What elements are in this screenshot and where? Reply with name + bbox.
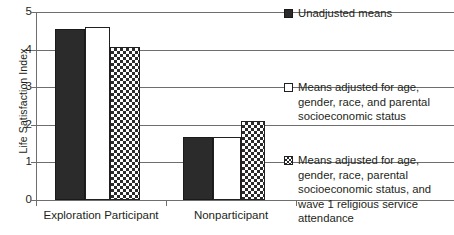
x-tick-separator-mid <box>166 200 167 206</box>
legend-swatch-checkered-square-icon <box>284 156 293 165</box>
x-category-exploration-participant: Exploration Participant <box>36 209 166 221</box>
bar-unadjusted-nonparticipant <box>183 137 213 200</box>
y-tickmark-5 <box>31 12 37 13</box>
y-tickmark-1 <box>31 162 37 163</box>
y-tick-5: 5 <box>10 6 32 17</box>
x-tick-separator-left <box>36 200 37 206</box>
bar-adjusted-full-nonparticipant <box>241 121 265 200</box>
y-tick-4: 4 <box>10 44 32 55</box>
y-axis-line <box>36 12 37 200</box>
y-tick-3: 3 <box>10 81 32 92</box>
legend-swatch-solid-square-icon <box>284 9 293 18</box>
legend-label-unadjusted: Unadjusted means <box>298 6 392 21</box>
bar-adjusted-basic-nonparticipant <box>213 137 241 200</box>
legend-label-adjusted-full: Means adjusted for age, gender, race, pa… <box>298 153 452 226</box>
legend-label-adjusted-basic: Means adjusted for age, gender, race, an… <box>298 80 452 124</box>
legend-entry-unadjusted: Unadjusted means <box>284 6 452 21</box>
chart-figure: Life Satisfaction Index 5 4 3 2 1 0 <box>0 0 454 235</box>
y-tick-0: 0 <box>10 194 32 205</box>
chart-legend: Unadjusted means Means adjusted for age,… <box>284 0 454 235</box>
plot-area: Life Satisfaction Index 5 4 3 2 1 0 <box>0 0 278 235</box>
y-tickmark-2 <box>31 125 37 126</box>
legend-entry-adjusted-full: Means adjusted for age, gender, race, pa… <box>284 153 452 226</box>
legend-entry-adjusted-basic: Means adjusted for age, gender, race, an… <box>284 80 452 124</box>
legend-swatch-open-square-icon <box>284 83 293 92</box>
bar-unadjusted-exploration <box>55 29 85 200</box>
bar-adjusted-basic-exploration <box>85 27 110 200</box>
bar-adjusted-full-exploration <box>110 47 140 200</box>
y-tick-2: 2 <box>10 119 32 130</box>
y-axis-tick-labels: 5 4 3 2 1 0 <box>8 0 32 235</box>
y-tickmark-3 <box>31 87 37 88</box>
y-tick-1: 1 <box>10 156 32 167</box>
y-tickmark-4 <box>31 50 37 51</box>
x-category-nonparticipant: Nonparticipant <box>166 209 296 221</box>
